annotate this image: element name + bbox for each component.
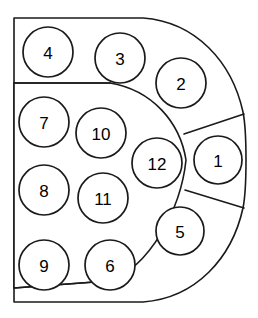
node-3-label: 3 [115,50,124,69]
node-11-label: 11 [94,190,112,209]
diagram-svg: 4 3 2 7 10 12 [0,0,258,318]
node-12-label: 12 [148,155,167,174]
node-4[interactable]: 4 [23,27,73,77]
diagram-canvas: 4 3 2 7 10 12 [0,0,258,318]
node-4-label: 4 [43,44,52,63]
node-3[interactable]: 3 [95,33,145,83]
node-10[interactable]: 10 [76,108,126,158]
node-8-label: 8 [39,182,48,201]
node-5-label: 5 [175,223,184,242]
node-6-label: 6 [105,257,114,276]
node-9[interactable]: 9 [19,240,69,290]
node-6[interactable]: 6 [85,240,135,290]
node-2-label: 2 [176,75,185,94]
node-5[interactable]: 5 [156,207,204,255]
node-7-label: 7 [39,114,48,133]
node-9-label: 9 [39,257,48,276]
node-1-label: 1 [213,152,222,171]
node-7[interactable]: 7 [19,97,69,147]
node-10-label: 10 [92,125,111,144]
node-8[interactable]: 8 [19,165,69,215]
node-2[interactable]: 2 [156,58,206,108]
node-12[interactable]: 12 [132,138,182,188]
node-11[interactable]: 11 [78,173,128,223]
node-1[interactable]: 1 [194,136,242,184]
